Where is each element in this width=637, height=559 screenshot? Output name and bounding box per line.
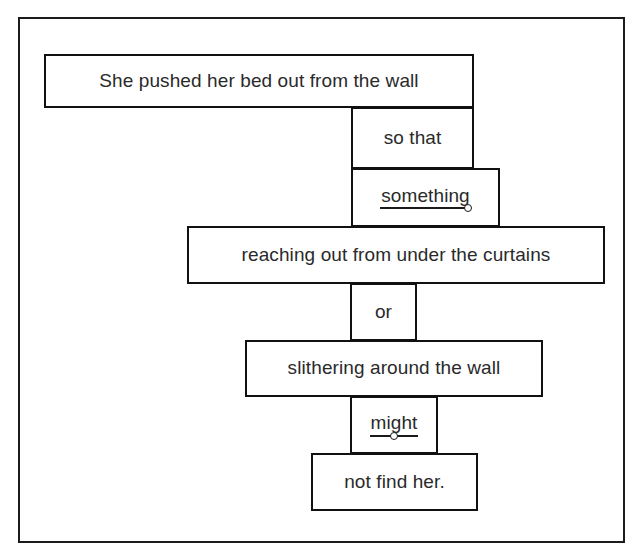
- diagram-box-label: or: [374, 302, 393, 323]
- diagram-box-label: something: [380, 186, 471, 210]
- diagram-box-main-clause: She pushed her bed out from the wall: [44, 54, 474, 108]
- diagram-box-label: might: [370, 413, 419, 437]
- diagram-box-modal-verb: might: [350, 396, 438, 454]
- diagram-canvas: She pushed her bed out from the wall so …: [0, 0, 637, 559]
- node-dot-icon: [390, 432, 398, 440]
- diagram-box-label: slithering around the wall: [287, 358, 502, 379]
- diagram-box-participial-phrase-2: slithering around the wall: [245, 340, 543, 397]
- diagram-box-label: reaching out from under the curtains: [241, 245, 552, 266]
- page-frame: She pushed her bed out from the wall so …: [18, 17, 625, 543]
- diagram-box-label: so that: [383, 128, 443, 149]
- diagram-box-label: not find her.: [343, 472, 446, 493]
- node-dot-icon: [464, 204, 472, 212]
- diagram-box-predicate: not find her.: [311, 453, 478, 511]
- diagram-box-label: She pushed her bed out from the wall: [98, 71, 419, 92]
- diagram-box-conjunction: or: [350, 283, 417, 341]
- diagram-box-subject: something: [351, 168, 500, 227]
- diagram-box-participial-phrase-1: reaching out from under the curtains: [187, 226, 605, 284]
- diagram-box-subordinator: so that: [351, 107, 474, 169]
